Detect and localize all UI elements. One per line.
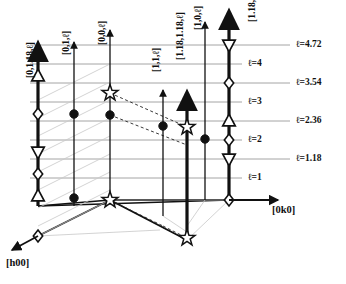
marker-down-triangle-rod-118-0-l-0 — [223, 40, 236, 52]
axis-box-layer — [38, 200, 229, 240]
perspective-lines-layer — [38, 64, 229, 240]
rod-label-0-1-l: [0,1,ℓ] — [62, 31, 72, 55]
gridline-label-l354: ℓ=3.54 — [296, 78, 322, 88]
marker-diamond-rod-0-118-l-1 — [33, 108, 42, 120]
marker-filled-circle-rod-1-0-l-0 — [201, 135, 209, 143]
perspective-line-9 — [38, 230, 160, 236]
dashed-connector-0 — [110, 93, 187, 127]
depth-line-0 — [187, 200, 229, 240]
rod-label-0-0-l: [0,0,ℓ] — [98, 21, 108, 45]
marker-filled-circle-rod-1-1-l-0 — [159, 122, 167, 130]
marker-diamond-rod-118-0-l-1 — [224, 77, 233, 89]
rod-label-0-118-l: [0,1.18,ℓ] — [26, 42, 36, 78]
gridline-label-l472: ℓ=4.72 — [296, 40, 322, 50]
axis-label-h00: [h00] — [6, 258, 29, 269]
marker-diamond-rod-118-0-l-3 — [224, 134, 233, 146]
depth-line-1 — [187, 200, 205, 226]
reciprocal-space-diagram: ℓ=4.72 ℓ=4 ℓ=3.54 ℓ=3 ℓ=2.36 ℓ=2 ℓ=1.18 … — [0, 0, 346, 284]
marker-filled-circle-rod-0-1-l-1 — [70, 194, 78, 202]
axis-label-0k0: [0k0] — [272, 205, 295, 216]
marker-star-rod-118-118-l-1 — [179, 230, 195, 245]
gridline-label-l4: ℓ=4 — [248, 59, 262, 69]
gridline-label-l2: ℓ=2 — [248, 135, 262, 145]
gridline-label-l118: ℓ=1.18 — [296, 154, 322, 164]
dashed-connector-1 — [110, 115, 187, 145]
marker-down-triangle-rod-0-118-l-2 — [32, 147, 45, 159]
rod-label-118-0-l: [1.18,0,ℓ] — [248, 0, 258, 22]
rod-label-1-1-l: [1,1,ℓ] — [152, 48, 162, 72]
rod-label-118-118-l: [1.18,1.18,ℓ] — [176, 12, 186, 60]
marker-down-triangle-rod-118-0-l-4 — [223, 154, 236, 166]
axis-h00 — [12, 236, 38, 250]
marker-filled-circle-rod-0-1-l-0 — [70, 110, 78, 118]
dashed-connector-layer — [110, 93, 187, 238]
marker-filled-circle-rod-0-0-l-1 — [106, 111, 114, 119]
rod-label-1-0-l: [1,0,ℓ] — [194, 6, 204, 30]
marker-up-triangle-rod-118-0-l-2 — [223, 114, 236, 126]
marker-up-triangle-rod-0-118-l-4 — [32, 189, 45, 201]
diagram-canvas — [0, 0, 346, 284]
gridline-label-l236: ℓ=2.36 — [296, 116, 322, 126]
gridline-label-l1: ℓ=1 — [248, 173, 262, 183]
gridline-label-l3: ℓ=3 — [248, 97, 262, 107]
